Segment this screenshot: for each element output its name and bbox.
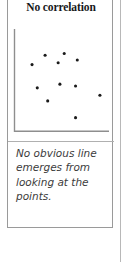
figure-card: No correlation No obvious line emerges f… — [7, 0, 113, 228]
data-points-group — [31, 52, 102, 119]
page-vertical-rule — [120, 0, 121, 262]
scatter-plot — [13, 29, 109, 133]
figure-title: No correlation — [8, 1, 114, 13]
scatter-plot-svg — [13, 29, 109, 133]
data-point — [36, 86, 39, 89]
section-divider — [8, 141, 114, 142]
data-point — [74, 84, 77, 87]
data-point — [31, 63, 34, 66]
data-point — [57, 61, 60, 64]
data-point — [58, 83, 61, 86]
data-point — [98, 94, 101, 97]
figure-caption: No obvious line emerges from looking at … — [16, 146, 108, 204]
data-point — [44, 54, 47, 57]
data-point — [74, 116, 77, 119]
data-point — [76, 58, 79, 61]
data-point — [46, 99, 49, 102]
data-point — [63, 52, 66, 55]
